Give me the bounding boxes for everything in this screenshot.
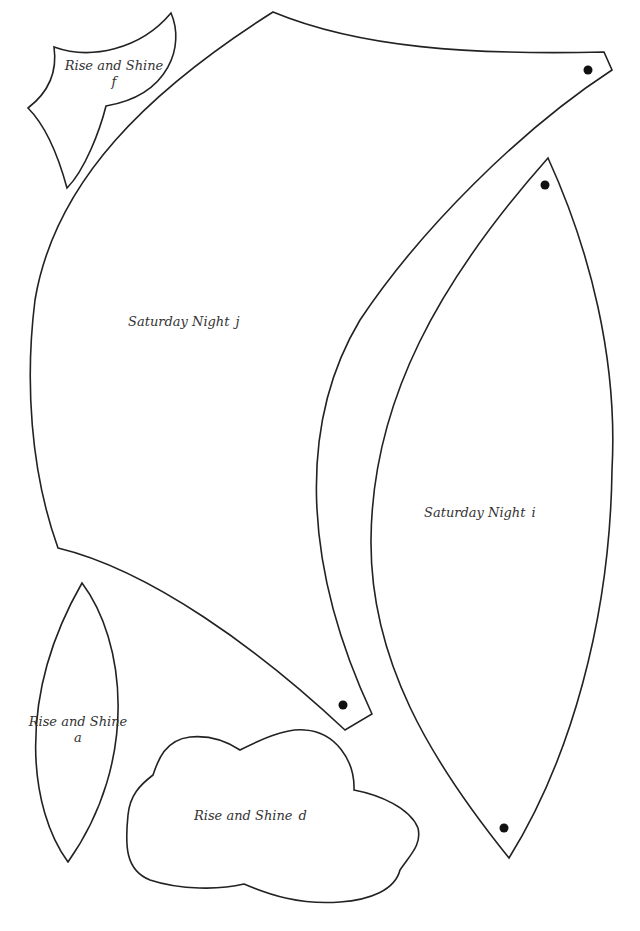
piece-a-letter: a [28, 730, 128, 746]
piece-label-f: Rise and Shine f [64, 58, 164, 90]
piece-f-letter: f [64, 74, 164, 90]
piece-label-i: Saturday Nighti [424, 505, 536, 521]
pattern-sheet [0, 0, 640, 931]
piece-label-a: Rise and Shine a [28, 714, 128, 746]
piece-label-j: Saturday Nightj [128, 314, 240, 330]
piece-d-name: Rise and Shine [194, 808, 293, 823]
piece-a-name: Rise and Shine [29, 714, 128, 729]
marker-dot-j-bottom [339, 701, 348, 710]
piece-j-letter: j [235, 314, 239, 329]
piece-label-d: Rise and Shined [194, 808, 307, 824]
piece-j-name: Saturday Night [128, 314, 229, 329]
piece-d-letter: d [299, 808, 307, 823]
piece-i-letter: i [531, 505, 535, 520]
piece-f-name: Rise and Shine [65, 58, 164, 73]
marker-dot-j-top [584, 66, 593, 75]
piece-i-name: Saturday Night [424, 505, 525, 520]
marker-dot-i-bottom [500, 824, 509, 833]
marker-dot-i-top [541, 181, 550, 190]
